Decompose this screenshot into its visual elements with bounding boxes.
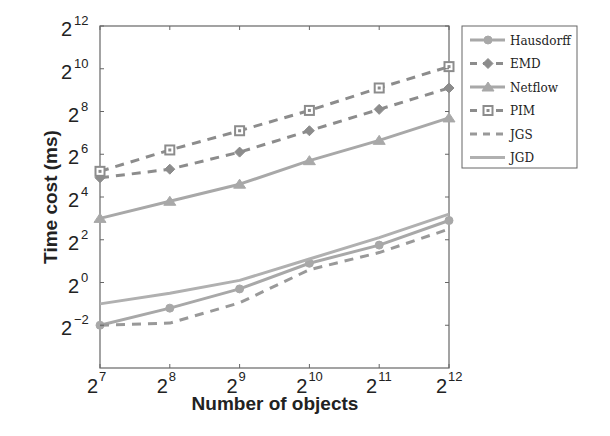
svg-text:0: 0 [81,270,88,285]
svg-text:2: 2 [68,275,79,297]
svg-text:8: 8 [81,99,88,114]
y-tick-label: 26 [68,141,88,168]
y-tick-label: 22 [68,227,88,254]
y-tick-label: 24 [68,184,88,211]
svg-text:−2: −2 [74,312,89,327]
svg-text:12: 12 [448,369,462,384]
x-tick-label: 212 [436,369,463,397]
y-tick-label: 2−2 [61,312,89,339]
legend: HausdorffEMDNetflowPIMJGSJGD [462,26,577,168]
plot-area [100,26,449,368]
svg-text:2: 2 [61,61,72,83]
y-tick-label: 210 [61,56,89,83]
x-tick-label: 28 [157,369,176,397]
y-tick-label: 212 [61,13,89,40]
svg-text:10: 10 [74,56,88,71]
x-tick-label: 27 [87,369,106,397]
svg-text:4: 4 [81,184,88,199]
legend-label: PIM [510,104,535,118]
svg-text:2: 2 [366,375,377,397]
svg-text:7: 7 [99,369,106,384]
series-hausdorff [96,217,453,330]
series-layer [94,62,455,329]
x-axis-label: Number of objects [192,393,359,414]
legend-label: Hausdorff [510,34,572,48]
line-chart: 2−22022242628210212 272829210211212 Numb… [0,0,610,436]
svg-text:2: 2 [436,375,447,397]
svg-text:10: 10 [308,369,322,384]
legend-label: EMD [510,57,541,71]
svg-text:2: 2 [68,189,79,211]
y-tick-label: 28 [68,99,88,126]
svg-text:2: 2 [68,104,79,126]
svg-text:2: 2 [61,18,72,40]
legend-label: Netflow [510,81,559,95]
svg-text:8: 8 [169,369,176,384]
svg-text:12: 12 [74,13,88,28]
svg-text:2: 2 [61,317,72,339]
svg-text:2: 2 [87,375,98,397]
svg-text:11: 11 [378,369,392,384]
svg-text:2: 2 [81,227,88,242]
legend-label: JGD [508,151,534,165]
chart-canvas: 2−22022242628210212 272829210211212 Numb… [0,0,610,436]
svg-text:2: 2 [157,375,168,397]
x-tick-label: 211 [366,369,392,397]
svg-text:2: 2 [68,146,79,168]
svg-text:9: 9 [239,369,246,384]
y-tick-label: 20 [68,270,88,297]
series-jgd [100,214,449,304]
svg-text:6: 6 [81,141,88,156]
legend-label: JGS [508,128,533,142]
x-axis: 272829210211212 [87,26,463,397]
series-netflow [94,113,455,222]
series-pim [96,62,454,176]
y-axis-label: Time cost (ms) [40,130,61,264]
svg-text:2: 2 [68,232,79,254]
